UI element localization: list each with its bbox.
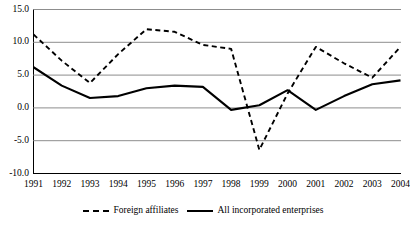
y-axis-tick-label: 15.0 — [12, 4, 29, 14]
plot-area — [33, 9, 401, 174]
series-lines — [34, 29, 401, 150]
solid-line-icon — [187, 210, 213, 212]
x-axis-ticks — [33, 174, 401, 175]
x-axis-tick-label: 2002 — [335, 178, 354, 190]
x-axis-tick-label: 1995 — [137, 178, 156, 190]
y-axis-tick-label: 0.0 — [17, 102, 29, 112]
x-axis-tick-label: 2003 — [363, 178, 382, 190]
x-axis-tick-label: 1994 — [109, 178, 128, 190]
x-axis-tick-label: 1998 — [222, 178, 241, 190]
x-axis-tick-label: 2004 — [391, 178, 410, 190]
x-axis-tick-label: 1991 — [24, 178, 43, 190]
series-line-1 — [34, 29, 401, 150]
legend-item-all-incorporated-enterprises: All incorporated enterprises — [187, 204, 323, 216]
x-axis-tick-label: 2000 — [278, 178, 297, 190]
x-axis-tick-label: 1992 — [52, 178, 71, 190]
y-axis-tick-label: -5.0 — [14, 135, 29, 145]
y-axis-labels: -10.0-5.00.05.010.015.0 — [0, 0, 31, 183]
dashed-line-icon — [83, 210, 109, 212]
x-axis-tick-label: 2001 — [306, 178, 325, 190]
x-axis-tick-label: 1993 — [80, 178, 99, 190]
x-axis-tick-label: 1997 — [193, 178, 212, 190]
x-axis-labels: 1991199219931994199519961997199819992000… — [33, 178, 401, 194]
legend-label: All incorporated enterprises — [217, 204, 323, 216]
y-axis-tick-label: 10.0 — [12, 36, 29, 46]
series-line-2 — [34, 67, 401, 110]
legend-label: Foreign affiliates — [113, 204, 178, 216]
x-axis-tick-label: 1996 — [165, 178, 184, 190]
x-axis-tick-label: 1999 — [250, 178, 269, 190]
legend-item-foreign-affiliates: Foreign affiliates — [83, 204, 178, 216]
gridlines — [33, 10, 401, 174]
plot-svg — [33, 9, 401, 174]
chart-legend: Foreign affiliates All incorporated ente… — [0, 204, 407, 216]
y-axis-tick-label: -10.0 — [9, 168, 29, 178]
y-axis-tick-label: 5.0 — [17, 69, 29, 79]
